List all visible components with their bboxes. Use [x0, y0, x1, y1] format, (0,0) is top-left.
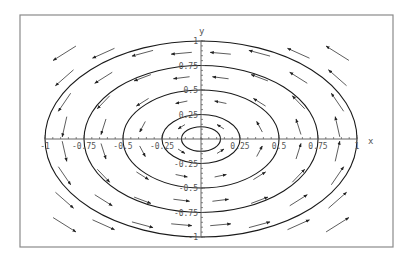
- x-tick-label: -0.5: [113, 142, 132, 151]
- vector-arrow: [253, 172, 265, 180]
- vector-arrow: [55, 192, 73, 208]
- y-axis-label: y: [199, 26, 205, 36]
- vector-arrow: [140, 146, 146, 157]
- vector-arrow: [288, 220, 310, 230]
- vector-arrow: [62, 117, 67, 137]
- vector-arrow: [178, 125, 185, 129]
- x-tick-label: 0.75: [308, 142, 327, 151]
- vector-arrow: [290, 72, 308, 83]
- vector-arrow: [176, 101, 188, 103]
- vector-arrow: [257, 146, 263, 157]
- vector-arrow: [173, 77, 189, 79]
- vector-arrow: [217, 149, 224, 153]
- vector-arrow: [296, 143, 301, 159]
- vector-arrow: [290, 195, 308, 206]
- x-tick-label: -0.25: [150, 142, 174, 151]
- vector-arrow: [328, 192, 346, 208]
- vector-arrow: [140, 121, 146, 132]
- x-tick-label: -0.75: [72, 142, 96, 151]
- vector-arrow: [215, 101, 227, 103]
- x-tick-label: 1: [355, 142, 360, 151]
- vector-arrow: [53, 46, 76, 60]
- vector-arrow: [95, 72, 113, 83]
- vector-arrow: [326, 218, 349, 232]
- vector-arrow: [95, 195, 113, 206]
- y-tick-label: -0.25: [174, 160, 198, 169]
- x-tick-label: 0.25: [230, 142, 249, 151]
- vector-arrow: [176, 175, 188, 177]
- vector-field-plot: -1-0.75-0.5-0.250.250.50.75110.750.50.25…: [0, 0, 410, 262]
- x-axis-label: x: [368, 136, 374, 146]
- vector-arrow: [212, 77, 228, 79]
- vector-arrow: [249, 50, 270, 56]
- vector-arrow: [296, 119, 301, 135]
- vector-arrow: [328, 70, 346, 86]
- x-tick-label: 0.5: [272, 142, 287, 151]
- vector-arrow: [101, 119, 106, 135]
- y-tick-label: 0.25: [179, 111, 198, 120]
- vector-arrow: [178, 149, 185, 153]
- axes: -1-0.75-0.5-0.250.250.50.75110.750.50.25…: [40, 37, 359, 242]
- x-tick-label: -1: [40, 142, 50, 151]
- vector-arrow: [62, 141, 67, 161]
- vector-arrow: [335, 117, 340, 137]
- vector-arrow: [217, 125, 224, 129]
- y-tick-label: -0.5: [179, 184, 198, 193]
- vector-arrow: [215, 175, 227, 177]
- vector-arrow: [257, 121, 263, 132]
- vector-arrow: [171, 224, 192, 226]
- vector-arrow: [253, 98, 265, 106]
- y-tick-label: 0.5: [184, 86, 199, 95]
- vector-arrow: [132, 50, 153, 56]
- vector-arrow: [335, 141, 340, 161]
- vector-arrow: [93, 220, 115, 230]
- vector-arrow: [288, 48, 310, 58]
- vector-arrow: [93, 48, 115, 58]
- vector-arrow: [173, 199, 189, 201]
- vector-arrow: [326, 46, 349, 60]
- vector-arrow: [210, 224, 231, 226]
- y-tick-label: -0.75: [174, 209, 198, 218]
- y-tick-label: -1: [188, 233, 198, 242]
- vector-arrow: [132, 222, 153, 228]
- y-tick-label: 1: [193, 37, 198, 46]
- y-tick-label: 0.75: [179, 62, 198, 71]
- vector-arrow: [55, 70, 73, 86]
- vector-arrow: [210, 52, 231, 54]
- vector-arrow: [249, 222, 270, 228]
- vector-arrow: [136, 172, 148, 180]
- vector-arrow: [212, 199, 228, 201]
- vector-arrow: [136, 98, 148, 106]
- vector-arrow: [101, 143, 106, 159]
- vector-arrow: [171, 52, 192, 54]
- vector-arrow: [53, 218, 76, 232]
